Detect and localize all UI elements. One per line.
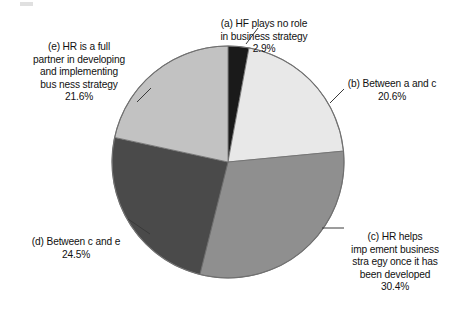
- pie-slices: [112, 46, 344, 278]
- slice-label-e-text: (e) HR is a full partner in developing a…: [33, 41, 125, 89]
- slice-label-b: (b) Between a and c 20.6%: [330, 66, 454, 116]
- slice-label-e-percent: 21.6%: [12, 91, 146, 103]
- slice-label-c: (c) HR helps imp ement business stra egy…: [336, 219, 454, 306]
- slice-label-d-text: (d) Between c and e: [32, 236, 120, 247]
- slice-label-a: (a) HF plays no role in business strateg…: [198, 6, 330, 68]
- slice-label-e: (e) HR is a full partner in developing a…: [12, 29, 146, 116]
- slice-label-c-percent: 30.4%: [336, 281, 454, 293]
- slice-label-c-text: (c) HR helps imp ement business stra egy…: [351, 231, 439, 279]
- slice-label-d: (d) Between c and e 24.5%: [8, 224, 144, 274]
- pie-chart-figure: (a) HF plays no role in business strateg…: [0, 0, 456, 309]
- slice-label-a-text: (a) HF plays no role in business strateg…: [220, 18, 307, 41]
- slice-label-b-percent: 20.6%: [330, 91, 454, 103]
- slice-label-b-text: (b) Between a and c: [348, 78, 436, 89]
- slice-label-d-percent: 24.5%: [8, 249, 144, 261]
- slice-label-a-percent: 2.9%: [198, 43, 330, 55]
